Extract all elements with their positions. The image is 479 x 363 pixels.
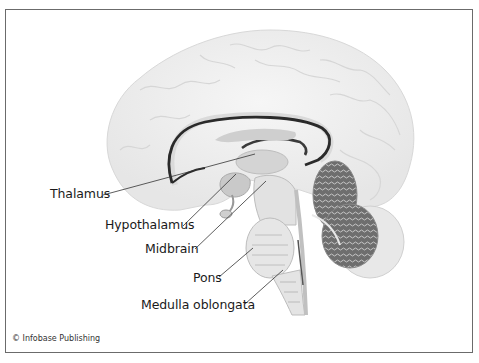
leader-pons xyxy=(219,248,253,277)
label-hypothalamus: Hypothalamus xyxy=(105,217,194,232)
copyright-credit: © Infobase Publishing xyxy=(12,334,100,343)
label-medulla-oblongata: Medulla oblongata xyxy=(141,297,255,312)
brainstem xyxy=(246,175,306,315)
label-pons: Pons xyxy=(193,270,222,285)
label-thalamus: Thalamus xyxy=(50,186,110,201)
label-midbrain: Midbrain xyxy=(145,241,199,256)
